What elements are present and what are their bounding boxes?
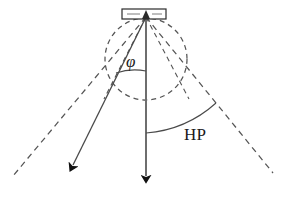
- cone-right-dashed-line: [146, 17, 273, 173]
- inner-right-dashed-line: [146, 17, 189, 99]
- hp-angle-label: HP: [184, 125, 206, 145]
- phi-angle-label: φ: [126, 52, 135, 72]
- diagram-svg: [0, 0, 292, 198]
- diagram-canvas: φ HP: [0, 0, 292, 198]
